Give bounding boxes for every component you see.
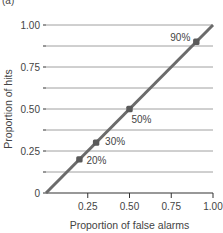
point-label: 30% <box>105 136 125 147</box>
y-tick-label: 0 <box>34 188 40 199</box>
gridlines <box>46 25 213 172</box>
data-point <box>93 139 99 145</box>
y-tick-label: 0.50 <box>21 104 41 115</box>
y-tick-label: 1.00 <box>21 20 41 31</box>
x-axis-ticks: 0.250.500.751.00 <box>78 193 223 212</box>
y-axis-title: Proportion of hits <box>2 69 14 148</box>
data-point <box>76 156 82 162</box>
point-label: 50% <box>132 114 152 125</box>
data-point <box>193 39 199 45</box>
x-axis-title: Proportion of false alarms <box>70 219 190 231</box>
data-point <box>126 106 132 112</box>
x-tick-label: 0.25 <box>78 201 98 212</box>
panel-label: (a) <box>2 0 14 6</box>
x-tick-label: 0.50 <box>120 201 140 212</box>
x-tick-label: 0.75 <box>162 201 182 212</box>
point-label: 90% <box>170 32 190 43</box>
point-label: 20% <box>86 155 106 166</box>
x-tick-label: 1.00 <box>203 201 223 212</box>
y-axis-ticks: 00.250.500.751.00 <box>21 20 46 199</box>
roc-chart: (a) 00.250.500.751.00 0.250.500.751.00 P… <box>0 0 223 233</box>
y-tick-label: 0.75 <box>21 62 41 73</box>
y-tick-label: 0.25 <box>21 146 41 157</box>
